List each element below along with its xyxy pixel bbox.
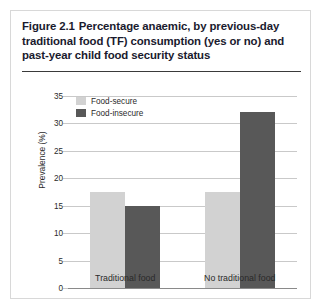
figure-title-line-1: Figure 2.1Percentage anaemic, by previou…	[22, 19, 304, 34]
y-axis-tick-label: 5	[58, 256, 63, 265]
y-axis-title: Prevalence (%)	[37, 105, 47, 215]
chart-legend: Food-secure Food-insecure	[76, 96, 143, 120]
bar-food-insecure-no-traditional-food	[240, 112, 275, 288]
legend-label-food-secure: Food-secure	[91, 97, 137, 106]
title-divider	[22, 71, 301, 72]
chart-plot-area: Prevalence (%) 05101520253035 Food-secur…	[21, 77, 302, 292]
y-axis-tick	[63, 206, 68, 207]
y-axis-tick	[63, 178, 68, 179]
legend-item-food-insecure: Food-insecure	[76, 108, 143, 118]
legend-swatch-food-secure-icon	[76, 97, 86, 105]
y-axis-tick-label: 30	[54, 119, 63, 128]
x-axis-line: 0	[68, 288, 297, 289]
legend-swatch-food-insecure-icon	[76, 109, 86, 117]
x-axis-category-label: No traditional food	[183, 273, 298, 283]
y-axis-tick-label: 20	[54, 174, 63, 183]
figure-title-line-2: traditional food (TF) consumption (yes o…	[22, 34, 304, 49]
y-axis-tick	[63, 151, 68, 152]
y-axis-tick	[63, 233, 68, 234]
chart-grid: 05101520253035	[68, 96, 297, 288]
figure-number: Figure 2.1	[22, 20, 75, 32]
y-axis-tick	[63, 123, 68, 124]
y-axis-tick-label: 0	[58, 284, 63, 293]
y-axis-tick-label: 25	[54, 146, 63, 155]
figure-title: Figure 2.1Percentage anaemic, by previou…	[22, 19, 304, 63]
y-axis-tick	[63, 288, 68, 289]
x-axis-category-label: Traditional food	[68, 273, 183, 283]
legend-item-food-secure: Food-secure	[76, 96, 143, 106]
figure-title-text-1: Percentage anaemic, by previous-day	[79, 20, 279, 32]
figure-title-line-3: past-year child food security status	[22, 48, 304, 63]
legend-label-food-insecure: Food-insecure	[91, 109, 143, 118]
y-axis-tick-label: 35	[54, 92, 63, 101]
figure-container: Figure 2.1Percentage anaemic, by previou…	[10, 10, 311, 299]
y-axis-tick	[63, 96, 68, 97]
y-axis-tick-label: 15	[54, 201, 63, 210]
y-axis-tick	[63, 261, 68, 262]
y-axis-tick-label: 10	[54, 229, 63, 238]
